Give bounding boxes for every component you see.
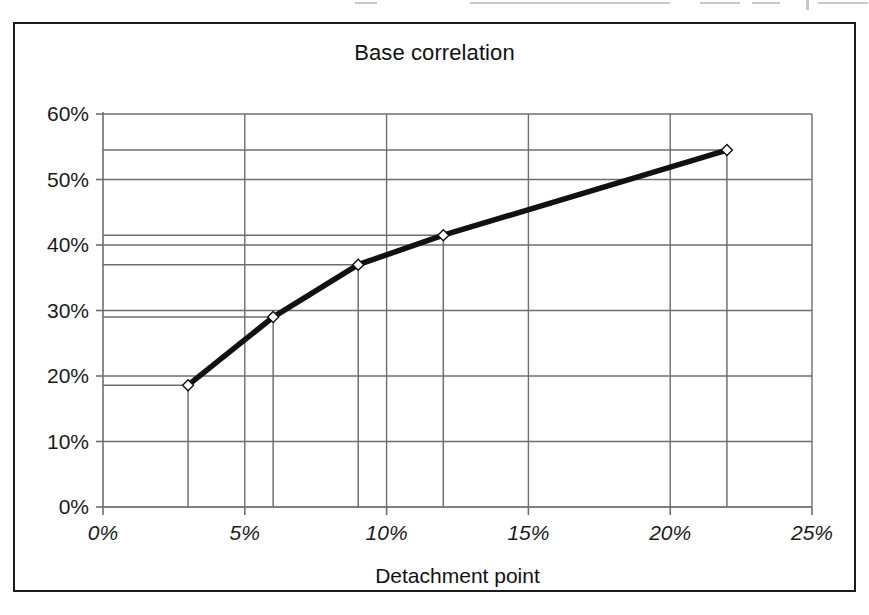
chart-gridlines [103,114,812,507]
x-tick-label: 25% [790,521,833,544]
scan-edge-artifact [0,0,869,12]
x-tick-label: 10% [366,521,408,544]
chart-axes [103,112,812,507]
y-tick-label: 10% [47,430,89,453]
chart-y-tick-labels: 0%10%20%30%40%50%60% [47,102,89,518]
chart-x-axis-title: Detachment point [375,564,540,587]
data-series-line [188,150,727,385]
y-tick-label: 30% [47,299,89,322]
x-tick-label: 20% [648,521,691,544]
chart-x-tick-labels: 0%5%10%15%20%25% [88,521,833,544]
x-axis-title-text: Detachment point [375,564,540,587]
chart-leader-lines [103,150,727,507]
x-tick-label: 5% [230,521,260,544]
y-tick-label: 60% [47,102,89,125]
y-tick-label: 40% [47,233,89,256]
y-tick-label: 20% [47,364,89,387]
y-tick-label: 50% [47,168,89,191]
y-tick-label: 0% [59,495,89,518]
chart-figure-frame: Base correlation 0%10%20%30%40%50%60% 0%… [13,22,856,592]
chart-data-markers [183,145,733,391]
x-tick-label: 0% [88,521,118,544]
base-correlation-line-chart: 0%10%20%30%40%50%60% 0%5%10%15%20%25% De… [15,24,854,590]
chart-tick-marks [96,114,812,515]
x-tick-label: 15% [507,521,549,544]
chart-data-line [188,150,727,385]
